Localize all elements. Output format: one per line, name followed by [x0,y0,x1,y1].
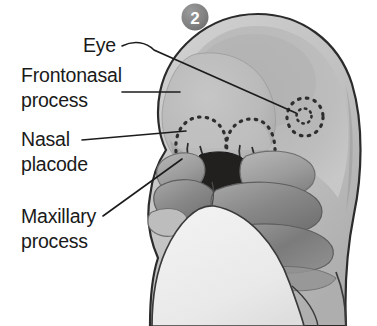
label-maxillary-line2: process [21,230,88,252]
label-frontonasal-line1: Frontonasal [21,64,122,86]
label-eye: Eye [83,34,116,56]
stage-number-badge: 2 [182,4,209,31]
embryo-face-diagram: Eye Frontonasal process Nasal placode Ma… [0,0,377,326]
eye-fill [285,96,325,138]
badge-number: 2 [190,9,199,28]
labels-group: Eye Frontonasal process Nasal placode Ma… [21,34,122,252]
label-nasal-placode-line1: Nasal [21,128,70,150]
label-frontonasal-line2: process [21,89,88,111]
eye-optic-vesicle [285,96,325,138]
label-nasal-placode-line2: placode [21,153,88,175]
label-maxillary-line1: Maxillary [21,205,97,227]
diagram-canvas: Eye Frontonasal process Nasal placode Ma… [0,0,377,326]
